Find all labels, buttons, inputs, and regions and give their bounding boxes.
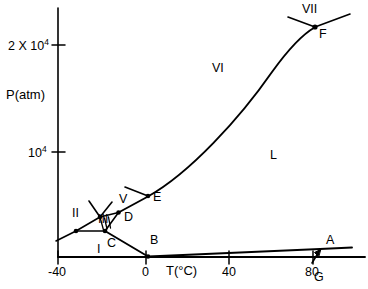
point-label-F: F [319,28,327,41]
y-axis-label: P(atm) [6,88,45,101]
branch-E-region-V [125,187,148,196]
region-label-II: II [72,207,79,220]
point-label-D: D [124,211,133,224]
y-tick-label-20000-exponent: 4 [44,37,49,47]
curve-vapor-pressure-B-A [149,248,353,257]
region-label-VI: VI [212,62,224,75]
region-label-L: L [270,149,277,162]
point-dot-B [146,254,151,259]
diagram-canvas [0,0,368,289]
point-dot-C [103,229,108,234]
phase-diagram-figure: P(atm) T(°C) 2 X 104 104 -40 0 40 80 I I… [0,0,368,289]
region-label-VII: VII [302,3,317,16]
edge-ice-II-III [76,217,100,231]
point-label-C: C [107,237,116,250]
point-label-G: G [314,271,324,284]
region-label-V: V [119,193,127,206]
point-label-A: A [326,234,334,247]
branch-F-upper-right [315,14,350,27]
y-tick-label-10000: 104 [28,145,47,160]
point-dot-ice-II-vertex [74,229,79,234]
y-tick-label-10000-base: 10 [28,146,42,160]
branch-F-upper-left [288,17,315,27]
point-label-E: E [153,191,161,204]
point-label-B: B [150,234,158,247]
y-tick-label-10000-exponent: 4 [42,144,47,154]
y-tick-label-20000-base: 2 X 10 [8,39,44,53]
branch-ice-II-down-left [56,231,76,241]
x-tick-label-minus40: -40 [48,266,66,279]
x-axis-label: T(°C) [166,264,197,277]
arrow-G-head [315,250,321,257]
region-label-I: I [97,243,100,256]
curve-melting-D-E-F [119,28,315,213]
point-dot-F [312,24,317,29]
point-dot-D [116,210,121,215]
point-dot-E [146,194,151,199]
x-tick-label-40: 40 [222,266,236,279]
y-tick-label-20000: 2 X 104 [8,38,49,53]
x-tick-label-0: 0 [142,266,149,279]
region-label-III: III [98,213,108,226]
